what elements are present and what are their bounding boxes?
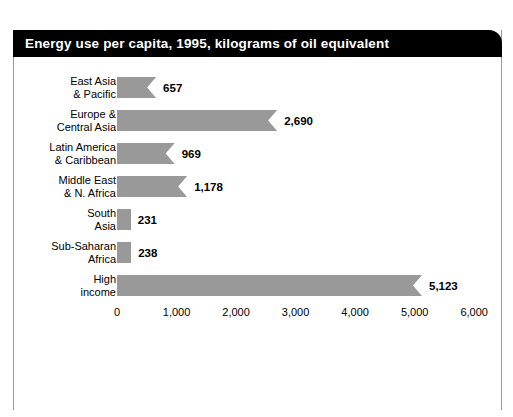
bar-wrapper: 969 [117,143,201,164]
category-label: Sub-Saharan Africa [14,240,116,265]
bar-value-label: 2,690 [284,115,313,127]
category-label: High income [14,273,116,298]
bar-value-label: 657 [163,82,182,94]
bar-row: Middle East & N. Africa1,178 [14,170,501,203]
bar-value-label: 5,123 [429,280,458,292]
bar-track: 238 [117,236,501,269]
category-label: East Asia & Pacific [14,75,116,100]
bar-track: 2,690 [117,104,501,137]
bar-wrapper: 1,178 [117,176,223,197]
bar-value-label: 238 [138,247,157,259]
category-label: Latin America & Caribbean [14,141,116,166]
chart-title: Energy use per capita, 1995, kilograms o… [13,36,389,51]
bar-row: South Asia231 [14,203,501,236]
bar-value-label: 1,178 [194,181,223,193]
bar-row: Sub-Saharan Africa238 [14,236,501,269]
x-tick-label: 5,000 [401,306,429,318]
x-tick-label: 3,000 [282,306,310,318]
bar [117,110,277,131]
x-tick-label: 4,000 [341,306,369,318]
bar [117,176,187,197]
bar-wrapper: 231 [117,209,157,230]
x-tick-label: 0 [114,306,120,318]
x-tick-label: 2,000 [222,306,250,318]
bar-track: 1,178 [117,170,501,203]
x-axis: 01,0002,0003,0004,0005,0006,000 [117,302,501,332]
x-tick-label: 6,000 [460,306,488,318]
bar-wrapper: 2,690 [117,110,313,131]
category-label: South Asia [14,207,116,232]
bar [117,143,175,164]
bar-track: 969 [117,137,501,170]
bar-row: Latin America & Caribbean969 [14,137,501,170]
bar-wrapper: 238 [117,242,157,263]
bar-value-label: 969 [182,148,201,160]
bar-track: 5,123 [117,269,501,302]
bar-value-label: 231 [138,214,157,226]
chart-plot-area: East Asia & Pacific657Europe & Central A… [14,57,501,409]
category-label: Middle East & N. Africa [14,174,116,199]
chart-figure: Energy use per capita, 1995, kilograms o… [0,0,513,417]
bar-wrapper: 5,123 [117,275,458,296]
bar [117,77,156,98]
bar-rows: East Asia & Pacific657Europe & Central A… [14,71,501,302]
x-tick-label: 1,000 [163,306,191,318]
bar-row: Europe & Central Asia2,690 [14,104,501,137]
bar-track: 231 [117,203,501,236]
bar [117,242,131,263]
chart-title-bar: Energy use per capita, 1995, kilograms o… [13,30,502,57]
bar-track: 657 [117,71,501,104]
bar-wrapper: 657 [117,77,182,98]
bar-row: East Asia & Pacific657 [14,71,501,104]
category-label: Europe & Central Asia [14,108,116,133]
bar [117,275,422,296]
bar-row: High income5,123 [14,269,501,302]
bar [117,209,131,230]
